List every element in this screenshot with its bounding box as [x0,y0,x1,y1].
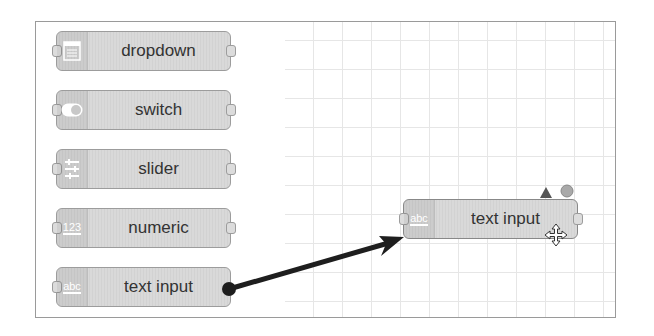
node-palette: dropdown switch slider 123 [36,22,286,317]
number-icon-text: 123 [63,221,81,235]
palette-node-dropdown[interactable]: dropdown [56,31,231,71]
sliders-icon [57,150,88,188]
output-port[interactable] [226,163,236,175]
palette-node-numeric[interactable]: 123 numeric [56,208,231,248]
node-label: dropdown [87,32,230,70]
output-port[interactable] [226,104,236,116]
node-label: text input [87,268,230,306]
node-label: switch [87,91,230,129]
node-label: numeric [87,209,230,247]
text-icon: abc [57,268,88,306]
text-icon-text: abc [63,280,81,294]
text-icon: abc [404,200,435,238]
palette-node-text-input[interactable]: abc text input [56,267,231,307]
output-port[interactable] [226,45,236,57]
node-label: text input [434,200,577,238]
output-port[interactable] [573,213,583,225]
palette-node-switch[interactable]: switch [56,90,231,130]
output-port[interactable] [226,222,236,234]
node-label: slider [87,150,230,188]
workspace-node-text-input[interactable]: abc text input [403,199,578,239]
list-icon [57,32,88,70]
toggle-icon [57,91,88,129]
editor-frame: dropdown switch slider 123 [35,21,616,318]
palette-node-slider[interactable]: slider [56,149,231,189]
number-icon: 123 [57,209,88,247]
flow-workspace[interactable]: abc text input [285,22,615,317]
text-icon-text: abc [410,212,428,226]
